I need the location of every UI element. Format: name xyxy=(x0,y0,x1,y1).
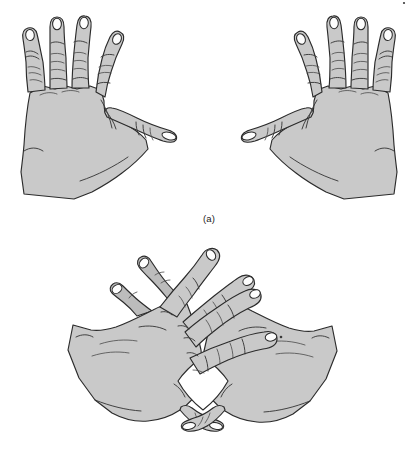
left-ring-nail xyxy=(79,17,88,29)
hands-open-illustration xyxy=(0,0,418,205)
panel-a: (a) xyxy=(0,0,418,230)
left-middle-nail xyxy=(53,18,62,30)
hands-interlocked-illustration xyxy=(0,232,418,442)
hand-left-open xyxy=(21,16,177,199)
panel-b: (b) xyxy=(0,232,418,475)
figure-root: (a) xyxy=(0,0,418,475)
right-middle-nail xyxy=(357,18,366,30)
right-ring-nail xyxy=(329,17,338,29)
left-hand-palm xyxy=(21,86,148,199)
ink-speck-panel-b xyxy=(280,336,283,339)
left-hand-body xyxy=(68,303,203,421)
ink-speck-top xyxy=(403,2,405,4)
panel-b-artwork xyxy=(0,232,418,442)
panel-a-artwork xyxy=(0,0,418,205)
right-hand-palm xyxy=(270,86,397,199)
panel-a-caption: (a) xyxy=(0,213,418,224)
hand-right-open xyxy=(241,16,397,199)
